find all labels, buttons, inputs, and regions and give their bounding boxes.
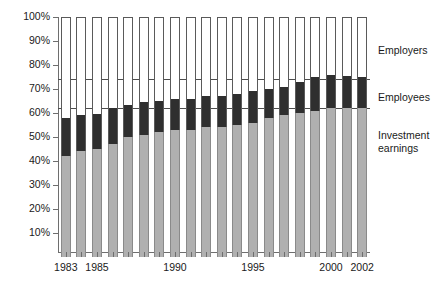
bar-segment-employers <box>310 17 320 77</box>
bar-segment-employees <box>108 108 118 144</box>
bar-segment-employers <box>139 17 149 102</box>
bar-column <box>76 17 86 257</box>
bar-segment-employers <box>154 17 164 101</box>
bar-segment-employees <box>61 118 71 156</box>
bar-segment-employers <box>264 17 274 89</box>
x-axis-tick-label: 1985 <box>77 262 117 273</box>
bar-segment-investment-earnings <box>186 130 196 257</box>
x-axis-tick-label: 1995 <box>233 262 273 273</box>
y-axis-tick-label: 20% <box>0 203 50 214</box>
bar-column <box>295 17 305 257</box>
bar-segment-employers <box>108 17 118 108</box>
bar-column <box>61 17 71 257</box>
y-axis-tick-label: 10% <box>0 227 50 238</box>
y-axis-tick-label: 80% <box>0 59 50 70</box>
bar-column <box>248 17 258 257</box>
bar-segment-investment-earnings <box>232 125 242 257</box>
legend-item-employees: Employees <box>378 91 430 104</box>
y-axis-tick-label: 50% <box>0 131 50 142</box>
bar-column <box>232 17 242 257</box>
bar-segment-employees <box>357 77 367 108</box>
bar-segment-investment-earnings <box>295 113 305 257</box>
bar-segment-employees <box>170 99 180 130</box>
x-axis-tick-mark <box>113 252 114 257</box>
y-axis-tick-label: 100% <box>0 11 50 22</box>
bar-segment-investment-earnings <box>217 127 227 257</box>
legend-item-employers: Employers <box>378 44 428 57</box>
x-axis-tick-mark <box>81 252 82 257</box>
bar-column <box>108 17 118 257</box>
bar-segment-employers <box>248 17 258 91</box>
x-axis-tick-mark <box>300 252 301 257</box>
x-axis-tick-mark <box>284 252 285 257</box>
bar-segment-employees <box>201 96 211 127</box>
bar-segment-employees <box>154 101 164 132</box>
x-axis-tick-mark <box>315 252 316 257</box>
bar-segment-employers <box>92 17 102 114</box>
x-axis-tick-label: 1990 <box>155 262 195 273</box>
bar-segment-investment-earnings <box>92 149 102 257</box>
bar-group <box>58 17 370 257</box>
x-axis-tick-mark <box>222 252 223 257</box>
bar-segment-investment-earnings <box>154 132 164 257</box>
bar-segment-employees <box>123 105 133 137</box>
bar-segment-investment-earnings <box>201 127 211 257</box>
bar-segment-employees <box>310 77 320 111</box>
bar-segment-employers <box>123 17 133 105</box>
bar-segment-employers <box>61 17 71 118</box>
bar-column <box>170 17 180 257</box>
bar-column <box>186 17 196 257</box>
x-axis-tick-mark <box>206 252 207 257</box>
bar-segment-employers <box>357 17 367 77</box>
bar-column <box>326 17 336 257</box>
bar-segment-employees <box>232 94 242 125</box>
x-axis-tick-mark <box>347 252 348 257</box>
x-axis-tick-mark <box>362 252 363 257</box>
bar-segment-employers <box>186 17 196 99</box>
bar-segment-employees <box>295 82 305 113</box>
bar-segment-investment-earnings <box>342 108 352 257</box>
bar-segment-employees <box>326 75 336 109</box>
bar-column <box>279 17 289 257</box>
bar-segment-employees <box>76 115 86 151</box>
bar-segment-employees <box>342 76 352 108</box>
y-axis-tick-label: 90% <box>0 35 50 46</box>
x-axis-tick-mark <box>175 252 176 257</box>
bar-segment-employers <box>279 17 289 87</box>
bar-segment-employees <box>217 96 227 127</box>
bar-segment-employers <box>76 17 86 115</box>
bar-segment-employees <box>92 114 102 149</box>
stacked-bar-chart: 10%20%30%40%50%60%70%80%90%100% 19831985… <box>0 0 432 291</box>
bar-segment-employees <box>279 87 289 116</box>
bar-segment-investment-earnings <box>108 144 118 257</box>
bar-segment-employees <box>248 91 258 122</box>
bar-segment-investment-earnings <box>264 118 274 257</box>
bar-segment-investment-earnings <box>123 137 133 257</box>
bar-segment-employers <box>295 17 305 82</box>
bar-segment-employers <box>217 17 227 96</box>
bar-segment-employers <box>170 17 180 99</box>
y-axis-tick-label: 30% <box>0 179 50 190</box>
x-axis-tick-mark <box>128 252 129 257</box>
bar-segment-employers <box>201 17 211 96</box>
bar-segment-employees <box>186 99 196 130</box>
bar-segment-employers <box>232 17 242 94</box>
bar-segment-employers <box>326 17 336 75</box>
x-axis-tick-mark <box>253 252 254 257</box>
x-axis-tick-mark <box>237 252 238 257</box>
x-axis-tick-label: 2002 <box>342 262 382 273</box>
x-axis-tick-mark <box>331 252 332 257</box>
x-axis-tick-mark <box>269 252 270 257</box>
bar-column <box>139 17 149 257</box>
bar-segment-investment-earnings <box>170 130 180 257</box>
x-axis-tick-mark <box>144 252 145 257</box>
bar-segment-employees <box>139 102 149 134</box>
bar-segment-investment-earnings <box>139 135 149 257</box>
legend-item-investment: Investment earnings <box>378 129 429 154</box>
y-axis-tick-label: 40% <box>0 155 50 166</box>
bar-column <box>310 17 320 257</box>
x-axis-tick-mark <box>159 252 160 257</box>
bar-column <box>123 17 133 257</box>
x-axis-tick-mark <box>66 252 67 257</box>
bar-segment-investment-earnings <box>279 115 289 257</box>
